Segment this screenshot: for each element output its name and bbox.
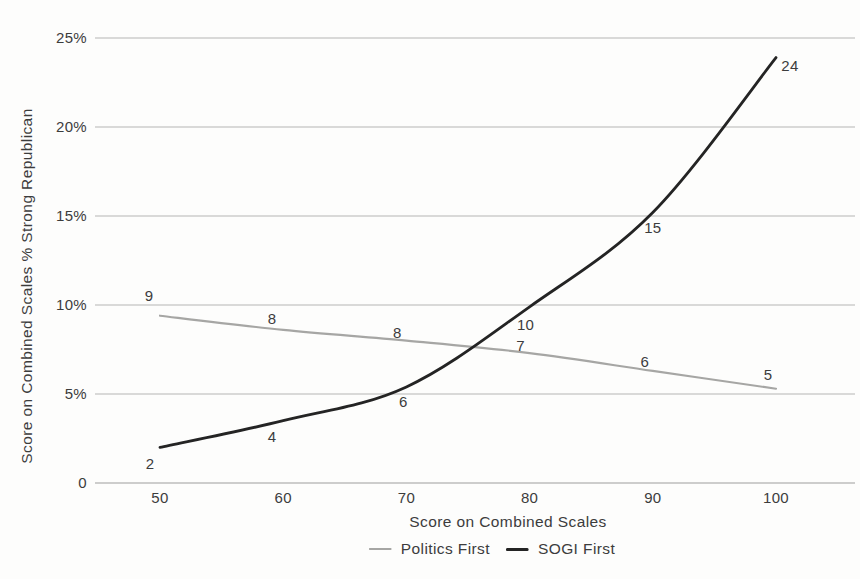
sogi-first-line-swatch xyxy=(506,548,529,551)
point-label-politics-first-90: 6 xyxy=(640,353,649,370)
x-axis-title: Score on Combined Scales xyxy=(409,513,606,531)
series-line-sogi-first xyxy=(160,58,776,448)
point-label-sogi-first-70: 6 xyxy=(399,393,408,410)
x-tick-label-60: 60 xyxy=(275,489,292,506)
legend-label-politics-first: Politics First xyxy=(401,540,490,558)
y-tick-label-20: 20% xyxy=(56,118,87,135)
plot-area: 05%10%15%20%25%5060708090100988765246101… xyxy=(0,0,860,579)
y-tick-label-15: 15% xyxy=(56,207,87,224)
x-tick-label-80: 80 xyxy=(521,489,538,506)
legend-item-politics-first: Politics First xyxy=(369,540,490,558)
legend-item-sogi-first: SOGI First xyxy=(506,540,615,558)
point-label-politics-first-100: 5 xyxy=(764,366,773,383)
point-label-sogi-first-80: 10 xyxy=(517,316,534,333)
chart-figure: 05%10%15%20%25%5060708090100988765246101… xyxy=(0,0,860,579)
x-tick-label-100: 100 xyxy=(763,489,789,506)
y-tick-label-5: 5% xyxy=(65,385,87,402)
y-tick-label-10: 10% xyxy=(56,296,87,313)
point-label-politics-first-70: 8 xyxy=(393,324,402,341)
legend-label-sogi-first: SOGI First xyxy=(538,540,615,558)
point-label-sogi-first-60: 4 xyxy=(268,428,277,445)
point-label-sogi-first-50: 2 xyxy=(146,455,155,472)
x-tick-label-90: 90 xyxy=(644,489,661,506)
point-label-politics-first-60: 8 xyxy=(268,310,277,327)
x-tick-label-70: 70 xyxy=(398,489,415,506)
legend: Politics First SOGI First xyxy=(369,540,615,558)
y-tick-label-0: 0 xyxy=(78,474,87,491)
politics-first-line-swatch xyxy=(369,548,392,550)
point-label-politics-first-80: 7 xyxy=(516,337,525,354)
y-tick-label-25: 25% xyxy=(56,29,87,46)
point-label-politics-first-50: 9 xyxy=(145,287,154,304)
point-label-sogi-first-100: 24 xyxy=(781,57,798,74)
y-axis-title: Score on Combined Scales % Strong Republ… xyxy=(18,108,36,463)
x-tick-label-50: 50 xyxy=(151,489,168,506)
point-label-sogi-first-90: 15 xyxy=(644,219,661,236)
